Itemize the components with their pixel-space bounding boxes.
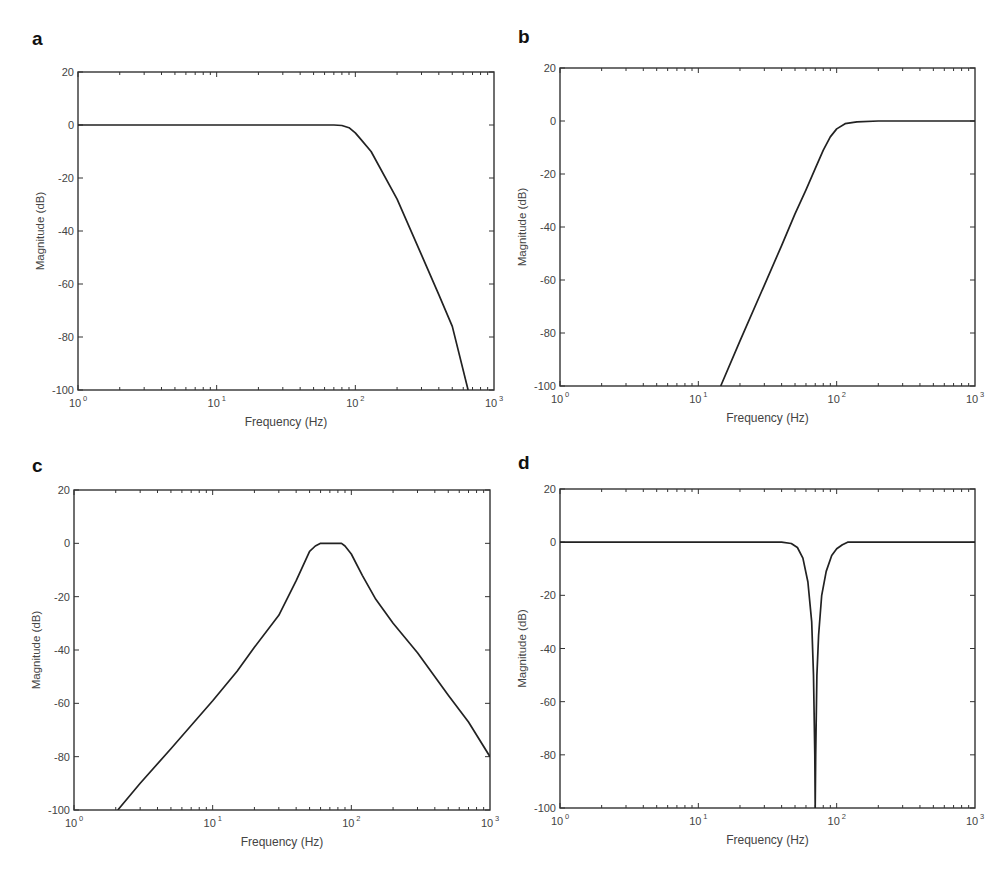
- y-tick-label: -80: [58, 331, 74, 343]
- y-tick-label: -20: [54, 591, 70, 603]
- x-tick-exponent: 1: [703, 812, 707, 821]
- y-tick-label: -80: [54, 751, 70, 763]
- y-tick-label: -20: [58, 172, 74, 184]
- plot-b: 200-20-40-60-80-100100101102103Frequency…: [516, 62, 984, 425]
- x-tick-label: 10: [551, 393, 563, 405]
- y-tick-label: -60: [58, 278, 74, 290]
- y-axis-label: Magnitude (dB): [34, 192, 46, 271]
- x-tick-exponent: 0: [83, 394, 87, 403]
- response-curve: [721, 121, 975, 386]
- y-tick-label: 20: [62, 66, 74, 78]
- plot-d: 200-20-40-60-80-100100101102103Frequency…: [516, 483, 984, 847]
- x-tick-label: 10: [551, 815, 563, 827]
- x-tick-exponent: 1: [222, 394, 226, 403]
- x-tick-exponent: 2: [842, 390, 846, 399]
- x-tick-label: 10: [828, 815, 840, 827]
- figure: a b c d 200-20-40-60-80-100100101102103F…: [0, 0, 1005, 879]
- y-tick-label: -100: [534, 802, 556, 814]
- x-axis-label: Frequency (Hz): [241, 835, 324, 849]
- x-tick-label: 10: [69, 397, 81, 409]
- plot-a: 200-20-40-60-80-100100101102103Frequency…: [34, 66, 503, 429]
- response-curve: [118, 543, 490, 810]
- x-tick-label: 10: [204, 817, 216, 829]
- y-tick-label: -100: [52, 384, 74, 396]
- y-tick-label: 0: [64, 537, 70, 549]
- x-tick-exponent: 3: [980, 812, 984, 821]
- x-tick-label: 10: [966, 393, 978, 405]
- y-tick-label: -60: [54, 697, 70, 709]
- y-tick-label: -80: [540, 327, 556, 339]
- response-curve: [78, 125, 468, 390]
- x-tick-exponent: 0: [565, 812, 569, 821]
- y-tick-label: -20: [540, 168, 556, 180]
- y-tick-label: -40: [54, 644, 70, 656]
- chart-canvas: 200-20-40-60-80-100100101102103Frequency…: [0, 0, 1005, 879]
- y-axis-label: Magnitude (dB): [516, 609, 528, 688]
- x-tick-label: 10: [346, 397, 358, 409]
- x-tick-exponent: 3: [495, 814, 499, 823]
- y-tick-label: -40: [540, 643, 556, 655]
- x-tick-exponent: 2: [842, 812, 846, 821]
- y-tick-label: -100: [534, 380, 556, 392]
- x-tick-label: 10: [966, 815, 978, 827]
- y-tick-label: -40: [58, 225, 74, 237]
- axes-box: [560, 68, 975, 386]
- x-tick-exponent: 0: [565, 390, 569, 399]
- y-tick-label: 20: [58, 484, 70, 496]
- y-tick-label: -80: [540, 749, 556, 761]
- x-tick-exponent: 1: [703, 390, 707, 399]
- y-axis-label: Magnitude (dB): [516, 188, 528, 267]
- x-tick-exponent: 1: [218, 814, 222, 823]
- x-tick-exponent: 0: [79, 814, 83, 823]
- x-tick-label: 10: [828, 393, 840, 405]
- x-tick-exponent: 3: [980, 390, 984, 399]
- x-axis-label: Frequency (Hz): [726, 411, 809, 425]
- x-tick-exponent: 2: [356, 814, 360, 823]
- axes-box: [560, 489, 975, 808]
- y-tick-label: 20: [544, 62, 556, 74]
- x-axis-label: Frequency (Hz): [726, 833, 809, 847]
- y-tick-label: -40: [540, 221, 556, 233]
- y-tick-label: 0: [550, 536, 556, 548]
- x-tick-label: 10: [689, 393, 701, 405]
- response-curve: [560, 542, 975, 808]
- x-tick-label: 10: [689, 815, 701, 827]
- axes-box: [74, 490, 490, 810]
- x-tick-label: 10: [342, 817, 354, 829]
- x-tick-exponent: 2: [360, 394, 364, 403]
- axes-box: [78, 72, 494, 390]
- plot-c: 200-20-40-60-80-100100101102103Frequency…: [30, 484, 499, 849]
- y-tick-label: 0: [68, 119, 74, 131]
- y-tick-label: -20: [540, 589, 556, 601]
- y-tick-label: -100: [48, 804, 70, 816]
- x-tick-label: 10: [481, 817, 493, 829]
- x-tick-label: 10: [65, 817, 77, 829]
- x-tick-label: 10: [208, 397, 220, 409]
- x-tick-label: 10: [485, 397, 497, 409]
- y-tick-label: -60: [540, 274, 556, 286]
- y-tick-label: 20: [544, 483, 556, 495]
- x-tick-exponent: 3: [499, 394, 503, 403]
- y-tick-label: -60: [540, 696, 556, 708]
- y-tick-label: 0: [550, 115, 556, 127]
- x-axis-label: Frequency (Hz): [245, 415, 328, 429]
- y-axis-label: Magnitude (dB): [30, 611, 42, 690]
